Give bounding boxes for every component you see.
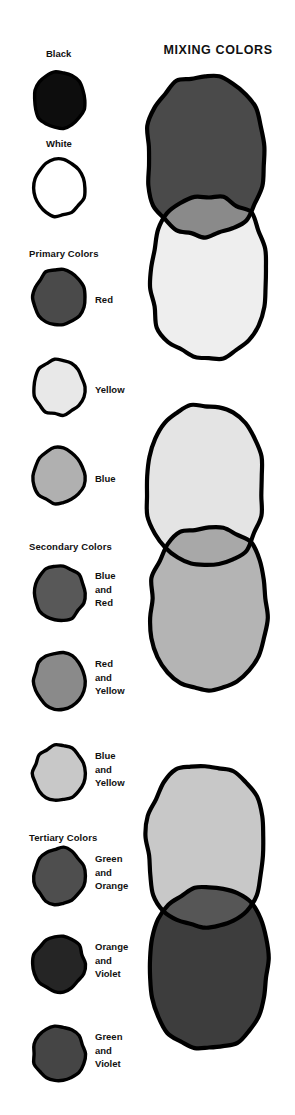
color-swatch-yellow	[29, 355, 89, 419]
mixing-diagram-red-yellow-orange	[143, 70, 293, 370]
swatch-label-blue: Blue	[95, 472, 116, 486]
section-heading-tertiary: Tertiary Colors	[29, 832, 97, 843]
color-swatch-green-and-violet	[29, 1022, 89, 1086]
mixing-colors-page: MIXING COLORS Primary Colors Secondary C…	[0, 0, 295, 1115]
swatch-label-green-and-orange: Green and Orange	[95, 852, 128, 893]
color-swatch-white	[29, 156, 89, 220]
swatch-label-orange-and-violet: Orange and Violet	[95, 940, 128, 981]
color-swatch-blue-and-red	[29, 561, 89, 625]
swatch-label-blue-and-red: Blue and Red	[95, 569, 116, 610]
color-swatch-blue-and-yellow	[29, 741, 89, 805]
color-swatch-green-and-orange	[29, 844, 89, 908]
swatch-label-yellow: Yellow	[95, 383, 125, 397]
mixing-diagram-yellow-blue-green	[143, 400, 293, 700]
color-swatch-red-and-yellow	[29, 649, 89, 713]
swatch-label-black: Black	[46, 47, 71, 61]
swatch-label-red-and-yellow: Red and Yellow	[95, 657, 125, 698]
page-title: MIXING COLORS	[148, 44, 288, 58]
color-swatch-blue	[29, 444, 89, 508]
swatch-label-blue-and-yellow: Blue and Yellow	[95, 749, 125, 790]
swatch-label-white: White	[46, 137, 72, 151]
section-heading-primary: Primary Colors	[29, 248, 99, 259]
swatch-label-green-and-violet: Green and Violet	[95, 1030, 122, 1071]
color-swatch-black	[29, 68, 89, 132]
swatch-label-red: Red	[95, 293, 113, 307]
mixing-diagram-green-violet-mix	[143, 760, 293, 1060]
color-swatch-orange-and-violet	[29, 932, 89, 996]
section-heading-secondary: Secondary Colors	[29, 541, 112, 552]
color-swatch-red	[29, 265, 89, 329]
